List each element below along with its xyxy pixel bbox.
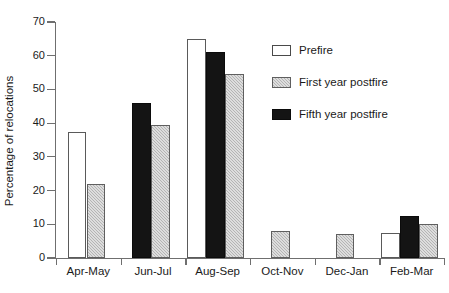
y-axis-tick-label-text: 50 [1, 83, 45, 94]
y-axis-tick-label-text: 0 [1, 252, 45, 263]
x-axis-category-label: Dec-Jan [315, 264, 380, 278]
y-axis-tick-label: 0 [0, 252, 45, 263]
legend-item-label: Fifth year postfire [299, 107, 388, 122]
y-axis-tick [47, 190, 55, 191]
y-axis-tick-label-text: 30 [1, 151, 45, 162]
bar-chart: Percentage of relocations 01020304050607… [0, 0, 449, 293]
x-axis-category-label: Oct-Nov [250, 264, 315, 278]
legend-item-label: Prefire [299, 43, 333, 58]
plot-area [56, 22, 444, 258]
y-axis-tick-label-text: 40 [1, 117, 45, 128]
y-axis-tick [47, 156, 55, 157]
bar [206, 52, 225, 258]
y-axis-tick-label-text: 60 [1, 50, 45, 61]
y-axis-tick-label: 30 [0, 151, 45, 162]
bar [187, 39, 206, 258]
y-axis-tick [47, 89, 55, 90]
y-axis-tick-label: 10 [0, 218, 45, 229]
bar [151, 125, 170, 258]
x-axis-category-label: Apr-May [56, 264, 121, 278]
y-axis-tick [47, 123, 55, 124]
y-axis-tick [47, 257, 55, 258]
y-axis-tick-label-text: 70 [1, 16, 45, 27]
y-axis-tick-label-text: 20 [1, 185, 45, 196]
y-axis-tick [47, 55, 55, 56]
bar [68, 132, 87, 258]
y-axis-tick-label-text: 10 [1, 218, 45, 229]
y-axis-tick [47, 21, 55, 22]
x-axis-category-label: Feb-Mar [379, 264, 444, 278]
y-axis-tick-label: 20 [0, 185, 45, 196]
y-axis-tick [47, 224, 55, 225]
bar [271, 231, 290, 258]
bar [400, 216, 419, 258]
y-axis-tick-label: 70 [0, 16, 45, 27]
bar [419, 224, 438, 258]
bar [132, 103, 151, 258]
bar [336, 234, 355, 258]
bar [225, 74, 244, 258]
y-axis-tick-label: 50 [0, 83, 45, 94]
legend-swatch-icon [272, 45, 291, 56]
x-axis-category-label: Jun-Jul [121, 264, 186, 278]
x-axis-category-label: Aug-Sep [185, 264, 250, 278]
y-axis-tick-label: 40 [0, 117, 45, 128]
bar [381, 233, 400, 258]
bar [87, 184, 106, 258]
legend-swatch-icon [272, 77, 291, 88]
x-axis-separator [444, 258, 445, 265]
legend-item-label: First year postfire [299, 75, 388, 90]
y-axis-tick-label: 60 [0, 50, 45, 61]
legend-swatch-icon [272, 109, 291, 120]
